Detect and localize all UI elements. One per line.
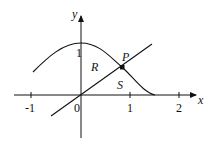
x-axis-label: x: [197, 93, 204, 107]
x-tick-label-neg1: -1: [25, 101, 35, 115]
point-label: P: [121, 50, 130, 64]
x-tick-label-1: 1: [127, 101, 133, 115]
x-tick-label-0: 0: [74, 101, 80, 115]
y-axis-label: y: [71, 7, 78, 21]
x-tick-label-2: 2: [176, 101, 182, 115]
intersection-point: [120, 65, 125, 70]
graph: y x 1 -1 0 1 2 P R S: [0, 0, 217, 144]
region-r-label: R: [90, 60, 99, 74]
line-through-origin: [51, 44, 152, 116]
y-tick-label-1: 1: [76, 46, 82, 60]
region-s-label: S: [117, 78, 123, 92]
